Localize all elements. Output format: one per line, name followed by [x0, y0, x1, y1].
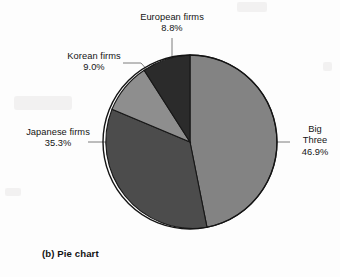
pie-label-korean-firms-name: Korean firms	[48, 51, 140, 62]
figure-caption: (b) Pie chart	[42, 248, 99, 259]
pie-label-european-firms: European firms 8.8%	[120, 12, 224, 35]
pie-label-big-three-percent: 46.9%	[292, 147, 338, 158]
pie-label-korean-firms: Korean firms 9.0%	[48, 51, 140, 74]
pie-label-european-firms-percent: 8.8%	[120, 23, 224, 34]
pie-label-big-three-line2: Three	[292, 135, 338, 146]
pie-label-big-three: Big Three 46.9%	[292, 124, 338, 158]
pie-label-korean-firms-percent: 9.0%	[48, 62, 140, 73]
pie-label-japanese-firms: Japanese firms 35.3%	[6, 127, 110, 150]
pie-label-japanese-firms-name: Japanese firms	[6, 127, 110, 138]
pie-label-japanese-firms-percent: 35.3%	[6, 138, 110, 149]
pie-slice-big-three[interactable]	[190, 55, 277, 227]
pie-label-european-firms-name: European firms	[120, 12, 224, 23]
pie-label-big-three-line1: Big	[292, 124, 338, 135]
figure-container: European firms 8.8% Korean firms 9.0% Ja…	[0, 0, 340, 277]
